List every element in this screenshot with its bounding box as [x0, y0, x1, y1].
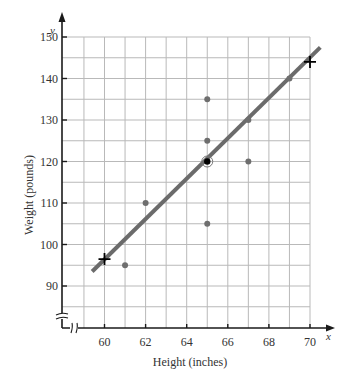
y-tick-label: 90 [46, 279, 58, 293]
y-axis-variable: y [49, 24, 55, 36]
data-point [122, 262, 128, 268]
axis-break-icon [56, 313, 78, 333]
y-tick-label: 140 [40, 72, 58, 86]
data-point [245, 117, 251, 123]
grid [62, 37, 310, 328]
y-axis-label: Weight (pounds) [22, 155, 36, 235]
x-tick-label: 64 [181, 335, 193, 349]
y-tick-label: 100 [40, 238, 58, 252]
data-point [245, 159, 251, 165]
y-axis-arrow-icon [59, 12, 66, 22]
y-tick-label: 110 [40, 196, 58, 210]
x-tick-label: 60 [99, 335, 111, 349]
data-point [204, 96, 210, 102]
y-tick-label: 150 [40, 30, 58, 44]
scatter-plot: 60626466687090100110120130140150 Height … [0, 0, 354, 387]
data-point [286, 76, 292, 82]
x-tick-label: 68 [263, 335, 275, 349]
y-tick-label: 130 [40, 113, 58, 127]
x-axis-label: Height (inches) [153, 355, 227, 369]
y-tick-label: 120 [40, 155, 58, 169]
x-tick-label: 70 [304, 335, 316, 349]
x-axis-variable: x [325, 330, 331, 342]
x-tick-label: 62 [140, 335, 152, 349]
data-point [143, 200, 149, 206]
data-point [204, 221, 210, 227]
x-tick-label: 66 [222, 335, 234, 349]
data-point [204, 138, 210, 144]
mean-point [204, 158, 210, 164]
